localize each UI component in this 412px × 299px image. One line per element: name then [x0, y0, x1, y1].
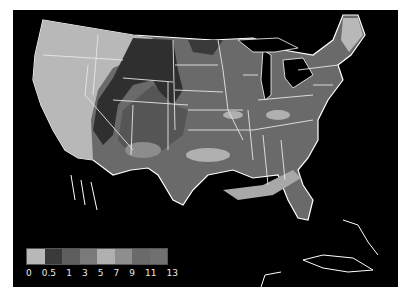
legend-swatch	[62, 249, 80, 264]
zone-texas-light	[186, 148, 230, 162]
map-frame: 0 0.5 1 3 5 7 9 11 13	[13, 10, 398, 287]
legend-label: 0	[26, 268, 32, 278]
baja-outline	[71, 175, 97, 210]
legend-swatch	[115, 249, 133, 264]
zone-ohio-light	[266, 110, 290, 120]
legend-swatch	[97, 249, 115, 264]
legend-label: 3	[82, 268, 88, 278]
legend-swatch	[45, 249, 63, 264]
yucatan-outline	[261, 272, 281, 287]
us-choropleth-map	[13, 10, 398, 287]
legend-label: 13	[166, 268, 177, 278]
legend-swatch	[80, 249, 98, 264]
legend-label: 7	[113, 268, 119, 278]
bahamas-outline	[343, 220, 378, 255]
cuba-outline	[303, 255, 373, 272]
legend-label: 0.5	[42, 268, 56, 278]
legend-label: 11	[145, 268, 156, 278]
legend-swatch	[150, 249, 168, 264]
legend-labels: 0 0.5 1 3 5 7 9 11 13	[26, 268, 178, 278]
legend-label: 9	[129, 268, 135, 278]
zone-sw-light	[125, 142, 161, 158]
legend-swatch	[27, 249, 45, 264]
legend: 0 0.5 1 3 5 7 9 11 13	[26, 248, 178, 278]
legend-swatch	[132, 249, 150, 264]
legend-color-bar	[26, 248, 168, 265]
legend-label: 5	[98, 268, 104, 278]
zone-iowa-light	[223, 111, 243, 119]
legend-label: 1	[66, 268, 72, 278]
